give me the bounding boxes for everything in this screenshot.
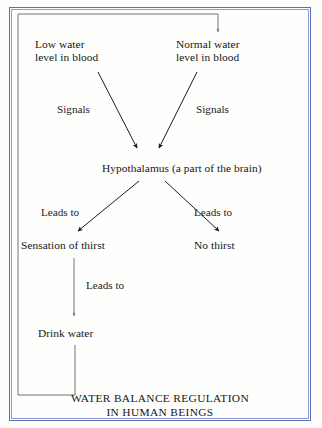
edge-label-leads-to-middle: Leads to	[86, 279, 124, 292]
node-normal-water-level: Normal water level in blood	[176, 38, 240, 65]
node-low-water-level: Low water level in blood	[35, 38, 98, 65]
edge-label-leads-to-right: Leads to	[194, 206, 232, 219]
figure-caption: WATER BALANCE REGULATION IN HUMAN BEINGS	[9, 391, 311, 419]
node-no-thirst: No thirst	[194, 239, 235, 252]
node-hypothalamus: Hypothalamus (a part of the brain)	[102, 162, 262, 175]
edge-label-leads-to-left: Leads to	[41, 206, 79, 219]
edge-normal-water-to-hypothalamus	[159, 72, 197, 148]
edge-label-signals-left: Signals	[57, 103, 90, 116]
node-sensation-of-thirst: Sensation of thirst	[21, 239, 105, 252]
node-drink-water: Drink water	[38, 327, 93, 340]
edge-label-signals-right: Signals	[196, 103, 229, 116]
figure-caption-line-2: IN HUMAN BEINGS	[9, 405, 311, 419]
edge-low-water-to-hypothalamus	[98, 72, 137, 148]
edge-hypothalamus-to-sensation	[78, 181, 139, 231]
figure-caption-line-1: WATER BALANCE REGULATION	[9, 391, 311, 405]
water-balance-figure: Low water level in blood Normal water le…	[0, 0, 322, 428]
